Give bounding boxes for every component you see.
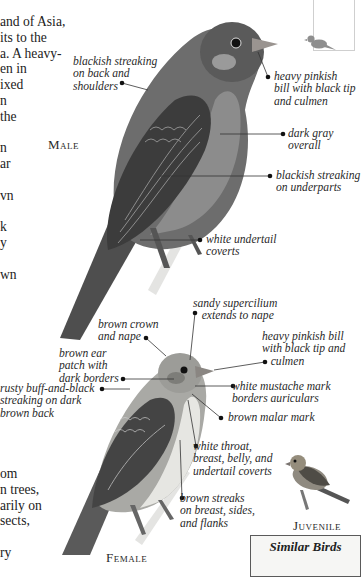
male-label-bill: heavy pinkish bill with black tip and cu… <box>274 71 355 108</box>
caption-juvenile: Juvenile <box>293 518 341 534</box>
similar-birds-title: Similar Birds <box>251 539 360 555</box>
silhouette-bird-icon <box>304 35 336 50</box>
female-label-bill: heavy pinkish bill with black tip and cu… <box>262 331 345 368</box>
juvenile-bird-illustration <box>285 455 350 510</box>
female-label-streaks: brown streaks on breast, sides, and flan… <box>180 493 255 530</box>
male-label-underparts: blackish streaking on underparts <box>276 170 360 195</box>
male-label-undertail: white undertail coverts <box>206 234 277 259</box>
caption-male: Male <box>48 137 79 153</box>
female-label-throat: white throat, breast, belly, and underta… <box>193 441 272 478</box>
female-label-crown: brown crown and nape <box>98 319 159 344</box>
male-label-back: blackish streaking on back and shoulders <box>73 56 157 93</box>
female-label-mustache: white mustache mark borders auriculars <box>232 381 331 406</box>
female-label-back: rusty buff-and-black streaking on dark b… <box>0 383 94 420</box>
male-label-overall: dark gray overall <box>288 128 333 153</box>
female-label-ear: brown ear patch with dark borders <box>59 348 119 385</box>
female-label-malar: brown malar mark <box>228 412 315 424</box>
female-label-supercilium: sandy supercilium extends to nape <box>193 298 277 323</box>
caption-female: Female <box>106 550 147 566</box>
similar-birds-box: Similar Birds <box>250 535 361 577</box>
